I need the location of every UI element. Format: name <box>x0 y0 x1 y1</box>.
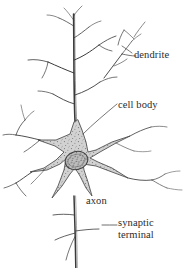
neuron-diagram: dendrite cell body axon synaptic termina… <box>0 0 189 268</box>
label-synaptic-terminal-line2: terminal <box>118 229 184 241</box>
dendrite-right <box>116 126 182 190</box>
label-cell-body: cell body <box>118 99 158 111</box>
apical-dendrite <box>28 6 117 121</box>
label-synaptic-terminal-line1: synaptic <box>118 217 184 229</box>
axon-shape <box>53 196 99 268</box>
cell-body-shape <box>30 120 130 198</box>
label-dendrite: dendrite <box>134 49 169 61</box>
dendrite-left <box>3 105 46 196</box>
leader-line-cell-body <box>83 104 117 134</box>
label-synaptic-terminal: synaptic terminal <box>118 217 184 240</box>
label-axon: axon <box>86 195 107 207</box>
